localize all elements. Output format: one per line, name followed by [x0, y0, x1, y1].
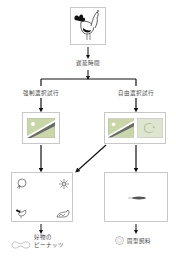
forced-choice-label: 強制選択試行 [16, 89, 66, 97]
subject-box [70, 7, 106, 45]
flag-diagonal-icon[interactable] [27, 118, 55, 138]
forced-choice-outcome-panel [11, 172, 73, 222]
pellet-icon [115, 236, 124, 245]
feather-icon [127, 195, 147, 201]
reward-peanut-label: 好物の ピーナッツ [34, 233, 64, 249]
sun-icon [58, 178, 70, 190]
reward-pellet-label: 固型飼料 [127, 237, 151, 245]
peanut-icon [10, 240, 32, 250]
free-choice-label: 自由選択試行 [111, 89, 161, 97]
rooster-icon [15, 207, 27, 219]
flag-crescent-icon[interactable] [137, 118, 163, 138]
flag-diagonal-icon[interactable] [108, 118, 134, 138]
forced-choice-stimulus-panel [22, 112, 60, 144]
free-choice-outcome-panel [104, 172, 168, 222]
delay-label: 遅延時間 [68, 59, 108, 67]
free-choice-stimulus-panel [104, 112, 166, 144]
chick-icon [15, 178, 27, 190]
hen-icon [56, 209, 70, 219]
rooster-icon [71, 8, 105, 44]
